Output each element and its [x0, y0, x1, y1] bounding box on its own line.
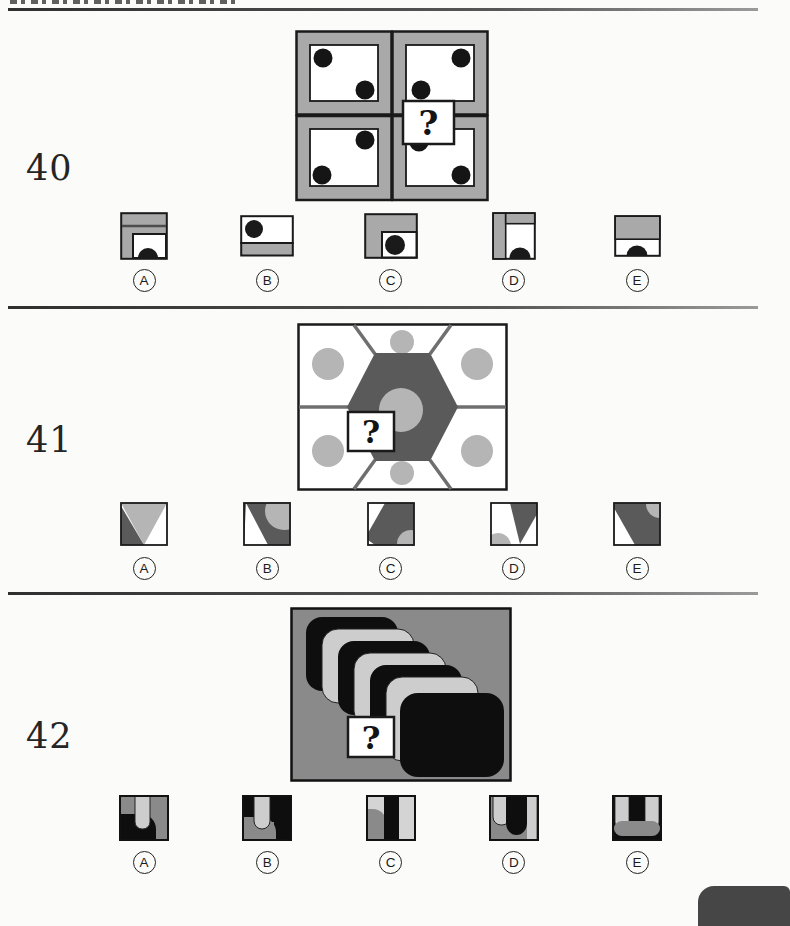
option-tile [364, 210, 418, 262]
option-letter: C [379, 557, 402, 580]
option-tile [614, 210, 661, 262]
option-a-graphic [119, 795, 169, 841]
option-c-graphic [364, 213, 418, 259]
option-d-graphic [489, 795, 539, 841]
question-figure-dot-cards: ? [295, 30, 489, 202]
option-d-graphic [492, 212, 536, 260]
option-tile [490, 498, 538, 550]
option-e: E [591, 498, 683, 586]
question-number: 41 [26, 420, 73, 460]
option-letter: E [626, 269, 649, 292]
option-tile [367, 498, 415, 550]
option-b: B [221, 792, 313, 880]
option-letter: B [256, 269, 279, 292]
question-42-options: A B [98, 792, 683, 880]
option-b-graphic [243, 502, 291, 546]
option-letter: D [502, 851, 525, 874]
question-figure-card-cascade: ? [290, 607, 512, 782]
page-corner-tab [698, 886, 790, 926]
option-d: D [468, 498, 560, 586]
option-tile [613, 498, 661, 550]
option-tile [119, 792, 169, 844]
option-tile [489, 792, 539, 844]
option-d-graphic [490, 502, 538, 546]
option-c: C [345, 792, 437, 880]
option-b: B [221, 498, 313, 586]
option-b: B [221, 210, 313, 298]
option-letter: E [626, 851, 649, 874]
option-a: A [98, 792, 190, 880]
question-40-options: A B C [98, 210, 683, 298]
option-letter: D [502, 557, 525, 580]
option-tile [492, 210, 536, 262]
option-e: E [591, 792, 683, 880]
option-tile [120, 210, 168, 262]
option-e: E [591, 210, 683, 298]
dot-cards-grid-graphic: ? [295, 30, 489, 202]
clipped-header-text [10, 0, 235, 4]
option-d: D [468, 792, 560, 880]
header-rule [8, 8, 758, 11]
option-tile [240, 210, 294, 262]
option-c-graphic [366, 795, 416, 841]
hexagon-circles-graphic: ? [297, 323, 508, 491]
question-mark: ? [419, 103, 439, 143]
option-letter: D [502, 269, 525, 292]
question-figure-hexagon: ? [297, 323, 508, 491]
option-letter: C [379, 269, 402, 292]
question-mark: ? [362, 414, 380, 450]
option-letter: B [256, 557, 279, 580]
option-letter: E [626, 557, 649, 580]
question-number: 42 [26, 716, 73, 756]
option-letter: A [133, 851, 156, 874]
option-tile [366, 792, 416, 844]
option-c: C [345, 498, 437, 586]
option-tile [243, 498, 291, 550]
option-letter: B [256, 851, 279, 874]
option-c: C [345, 210, 437, 298]
option-tile [242, 792, 292, 844]
option-tile [120, 498, 168, 550]
option-letter: A [133, 269, 156, 292]
option-e-graphic [614, 215, 661, 257]
option-a: A [98, 498, 190, 586]
option-e-graphic [612, 795, 662, 841]
option-c-graphic [367, 502, 415, 546]
option-b-graphic [242, 795, 292, 841]
option-d: D [468, 210, 560, 298]
question-separator [8, 306, 758, 309]
option-a: A [98, 210, 190, 298]
card-cascade-graphic: ? [290, 607, 512, 782]
question-separator [8, 592, 758, 595]
question-41-options: A B C [98, 498, 683, 586]
option-b-graphic [240, 215, 294, 257]
option-a-graphic [120, 502, 168, 546]
option-a-graphic [120, 212, 168, 260]
option-tile [612, 792, 662, 844]
option-letter: A [133, 557, 156, 580]
question-number: 40 [26, 148, 73, 188]
option-e-graphic [613, 502, 661, 546]
option-letter: C [379, 851, 402, 874]
question-mark: ? [362, 719, 381, 757]
